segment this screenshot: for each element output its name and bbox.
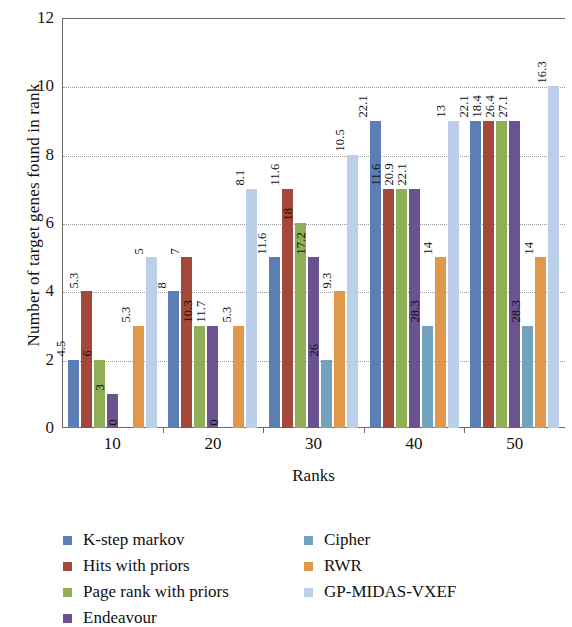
legend-column-right: CipherRWRGP-MIDAS-VXEF xyxy=(304,527,533,627)
legend-item[interactable]: Cipher xyxy=(304,527,533,553)
bar[interactable] xyxy=(509,121,520,429)
bar-slot: 11.6 xyxy=(269,18,280,428)
bar-value-label: 7 xyxy=(168,248,181,254)
legend-swatch-icon xyxy=(304,588,313,597)
bar[interactable] xyxy=(483,121,494,429)
bar[interactable] xyxy=(68,360,79,428)
bar-slot: 5.3 xyxy=(233,18,244,428)
legend-swatch-icon xyxy=(63,614,72,623)
bar-group: 4.55.36305.35 xyxy=(62,18,163,428)
bar-value-label: 5 xyxy=(133,248,146,254)
bar-group: 22.118.426.427.128.31416.3 xyxy=(464,18,565,428)
bar-slot: 27.1 xyxy=(509,18,520,428)
bar[interactable] xyxy=(470,121,481,429)
bar-slot: 5.3 xyxy=(133,18,144,428)
bar[interactable] xyxy=(308,257,319,428)
legend-label: GP-MIDAS-VXEF xyxy=(324,582,456,602)
legend-item[interactable]: Endeavour xyxy=(63,605,294,627)
bar-value-label: 11.6 xyxy=(256,232,269,254)
bar[interactable] xyxy=(496,121,507,429)
x-axis-tick-label: 10 xyxy=(62,434,163,454)
bar[interactable] xyxy=(435,257,446,428)
chart-legend: K-step markovHits with priorsPage rank w… xyxy=(63,527,533,627)
bar-value-label: 6 xyxy=(81,350,94,356)
bar-value-label: 9.3 xyxy=(321,272,334,288)
bar-value-label: 8.1 xyxy=(233,170,246,186)
bar[interactable] xyxy=(522,326,533,429)
bar[interactable] xyxy=(207,326,218,429)
bar-value-label: 3 xyxy=(94,384,107,390)
bar[interactable] xyxy=(334,291,345,428)
bar-value-label: 18.4 xyxy=(470,95,483,117)
bar-slot: 11.7 xyxy=(207,18,218,428)
bar[interactable] xyxy=(94,360,105,428)
legend-swatch-icon xyxy=(304,562,313,571)
bar[interactable] xyxy=(233,326,244,429)
bar[interactable] xyxy=(448,121,459,429)
legend-label: Page rank with priors xyxy=(83,582,229,602)
bar[interactable] xyxy=(133,326,144,429)
bar-value-label: 13 xyxy=(435,105,448,118)
bar-value-label: 4.5 xyxy=(55,341,68,357)
bar-groups: 4.55.36305.358710.311.705.38.111.611.618… xyxy=(62,18,565,428)
legend-item[interactable]: Hits with priors xyxy=(63,553,294,579)
bar-slot: 17.2 xyxy=(308,18,319,428)
bar[interactable] xyxy=(282,189,293,428)
bar[interactable] xyxy=(535,257,546,428)
x-axis-title: Ranks xyxy=(62,466,565,486)
y-axis-tick-label: 0 xyxy=(14,418,54,438)
bar[interactable] xyxy=(422,326,433,429)
bar-value-label: 28.3 xyxy=(509,300,522,322)
bar-slot: 22.1 xyxy=(470,18,481,428)
legend-item[interactable]: Page rank with priors xyxy=(63,579,294,605)
bar-value-label: 28.3 xyxy=(409,300,422,322)
bar-value-label: 22.1 xyxy=(357,95,370,117)
bar[interactable] xyxy=(347,155,358,428)
bar-value-label: 14 xyxy=(522,241,535,254)
bar[interactable] xyxy=(396,189,407,428)
bar-slot: 22.1 xyxy=(370,18,381,428)
bar-value-label: 0 xyxy=(207,419,220,425)
y-axis-title: Number of target genes found in rank xyxy=(24,15,44,415)
bar[interactable] xyxy=(321,360,332,428)
bar-slot: 9.3 xyxy=(334,18,345,428)
bar-value-label: 27.1 xyxy=(496,95,509,117)
bar-slot: 5.3 xyxy=(81,18,92,428)
bar-value-label: 0 xyxy=(107,419,120,425)
bar-slot: 18 xyxy=(295,18,306,428)
bar-group: 22.111.620.922.128.31413 xyxy=(364,18,465,428)
bar[interactable] xyxy=(194,326,205,429)
bar-value-label: 18 xyxy=(282,207,295,220)
legend-label: RWR xyxy=(324,556,362,576)
bar-slot: 6 xyxy=(94,18,105,428)
legend-item[interactable]: K-step markov xyxy=(63,527,294,553)
bar-slot: 8 xyxy=(168,18,179,428)
bar[interactable] xyxy=(383,189,394,428)
bar-slot: 22.1 xyxy=(409,18,420,428)
legend-column-left: K-step markovHits with priorsPage rank w… xyxy=(63,527,294,627)
legend-item[interactable]: GP-MIDAS-VXEF xyxy=(304,579,533,605)
legend-swatch-icon xyxy=(63,536,72,545)
bar-slot: 0 xyxy=(120,18,131,428)
legend-item[interactable]: RWR xyxy=(304,553,533,579)
bar[interactable] xyxy=(548,86,559,428)
bar-slot: 11.6 xyxy=(282,18,293,428)
bar-slot: 26.4 xyxy=(496,18,507,428)
bar-value-label: 16.3 xyxy=(535,61,548,83)
x-axis-tick-label: 50 xyxy=(464,434,565,454)
bar[interactable] xyxy=(269,257,280,428)
bar-slot: 10.3 xyxy=(194,18,205,428)
bar[interactable] xyxy=(246,189,257,428)
legend-swatch-icon xyxy=(63,588,72,597)
bar[interactable] xyxy=(168,291,179,428)
bar-value-label: 20.9 xyxy=(383,164,396,186)
bar[interactable] xyxy=(81,291,92,428)
bar-slot: 3 xyxy=(107,18,118,428)
legend-swatch-icon xyxy=(63,562,72,571)
bar[interactable] xyxy=(181,257,192,428)
bar-slot: 14 xyxy=(435,18,446,428)
x-axis-tick-label: 40 xyxy=(364,434,465,454)
legend-label: K-step markov xyxy=(83,530,185,550)
bar-slot: 10.5 xyxy=(347,18,358,428)
